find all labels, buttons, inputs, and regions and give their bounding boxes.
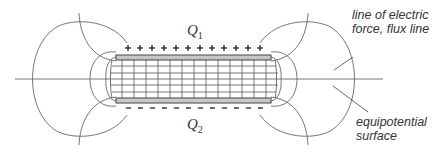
equipotential-text-1: equipotential [356, 115, 427, 129]
left-flux-line-bottom [79, 97, 116, 145]
top-plate [116, 55, 271, 60]
flux-line-leader [334, 57, 353, 70]
left-flux-line-top [79, 13, 116, 61]
equipotential-annotation: equipotential surface [356, 115, 427, 143]
top-charge-label: Q1 [187, 22, 203, 41]
bottom-plate [116, 98, 271, 103]
right-flux-line-top [271, 13, 308, 61]
bottom-charge-label: Q2 [187, 116, 203, 135]
top-charge-subscript: 1 [198, 30, 203, 41]
equipotential-text-2: surface [356, 129, 427, 143]
top-charge-symbol: Q [187, 22, 198, 38]
right-flux-line-bottom [271, 97, 308, 145]
flux-line-text-1: line of electric [352, 8, 429, 22]
bottom-charge-subscript: 2 [198, 124, 203, 135]
flux-line-text-2: force, flux line [352, 22, 429, 36]
positive-charges [125, 45, 263, 51]
bottom-charge-symbol: Q [187, 116, 198, 132]
equipotential-leader [333, 86, 368, 112]
flux-line-annotation: line of electric force, flux line [352, 8, 429, 36]
